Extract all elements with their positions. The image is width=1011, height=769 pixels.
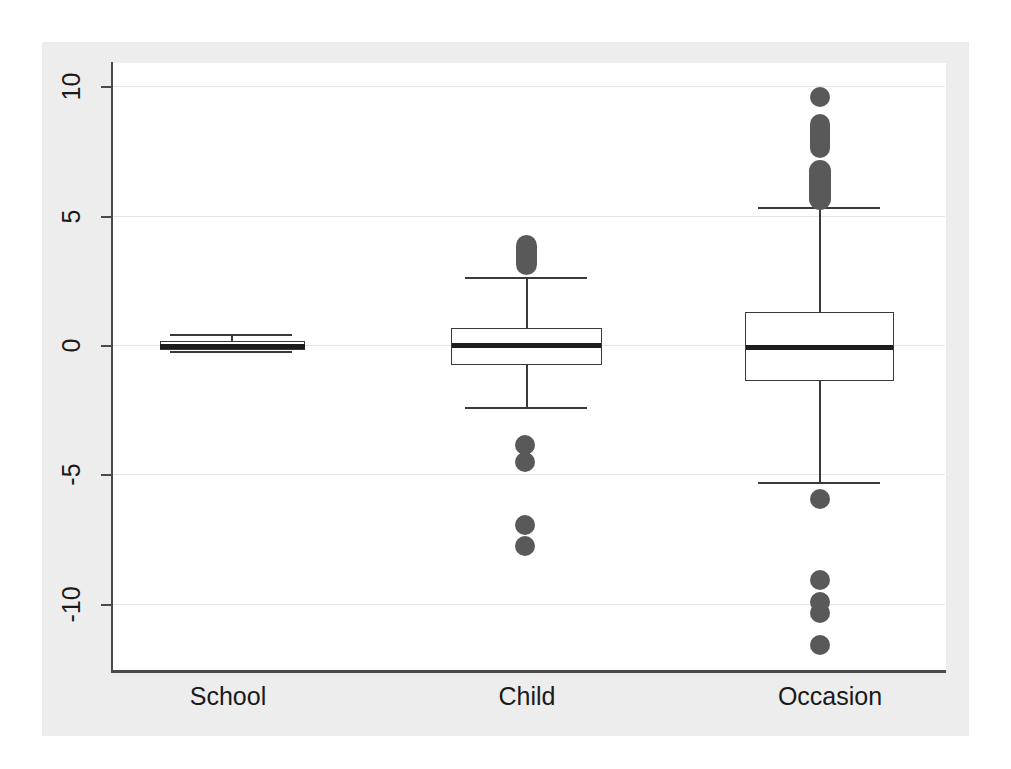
child-whisker-lower xyxy=(526,365,528,408)
y-tick-label-10: 10 xyxy=(57,57,86,117)
child-outlier-low-2 xyxy=(515,452,535,472)
school-median xyxy=(160,344,305,349)
occasion-outlier-low-5 xyxy=(810,635,830,655)
occasion-outlier-high-1 xyxy=(810,87,830,107)
x-axis-line xyxy=(111,670,946,673)
child-outlier-low-4 xyxy=(515,536,535,556)
x-tick-label-occasion: Occasion xyxy=(750,682,910,711)
occasion-whisker-upper xyxy=(819,208,821,314)
occasion-median xyxy=(746,345,893,350)
occasion-outlier-low-4 xyxy=(810,603,830,623)
y-tick-mark-5 xyxy=(101,216,112,218)
x-tick-label-child: Child xyxy=(457,682,597,711)
y-tick-label-neg10: -10 xyxy=(57,572,86,638)
child-median xyxy=(452,343,601,348)
occasion-outlier-low-1 xyxy=(810,489,830,509)
child-whisker-cap-upper xyxy=(465,277,587,279)
y-tick-mark-0 xyxy=(101,345,112,347)
y-tick-label-0: 0 xyxy=(57,316,86,376)
occasion-outlier-cluster-high-lower xyxy=(809,160,831,210)
child-whisker-upper xyxy=(526,278,528,330)
child-outlier-low-3 xyxy=(515,515,535,535)
school-whisker-cap-upper xyxy=(170,334,292,336)
occasion-outlier-cluster-high-upper xyxy=(810,114,830,158)
child-outlier-cluster-high xyxy=(516,235,537,275)
occasion-outlier-low-2 xyxy=(810,570,830,590)
y-tick-mark-neg10 xyxy=(101,604,112,606)
child-whisker-cap-lower xyxy=(465,407,587,409)
y-tick-label-5: 5 xyxy=(57,187,86,247)
x-tick-label-school: School xyxy=(158,682,298,711)
school-whisker-cap-lower xyxy=(170,351,292,353)
occasion-whisker-cap-lower xyxy=(758,482,880,484)
y-tick-mark-10 xyxy=(101,86,112,88)
occasion-whisker-lower xyxy=(819,381,821,483)
y-tick-label-neg5: -5 xyxy=(57,445,86,505)
boxplot-figure: 10 5 0 -5 -10 xyxy=(0,0,1011,769)
y-tick-mark-neg5 xyxy=(101,474,112,476)
y-axis-line xyxy=(111,62,113,672)
